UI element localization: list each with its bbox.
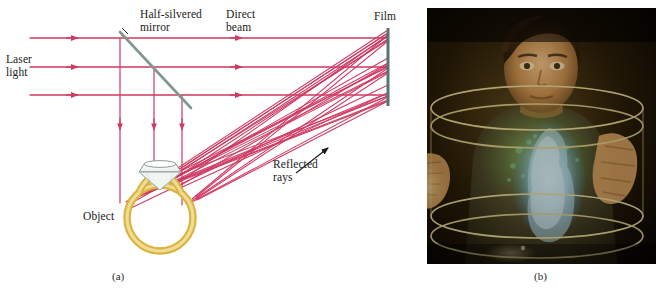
caption-panel-b: (b) [534, 270, 547, 282]
label-direct-beam: Direct beam [226, 8, 255, 33]
hologram-photograph [427, 8, 656, 264]
label-film: Film [374, 10, 396, 23]
label-reflected-rays: Reflected rays [273, 158, 318, 183]
label-laser-light: Laser light [6, 53, 32, 78]
label-half-silvered-mirror: Half-silvered mirror [140, 8, 202, 33]
split-beam-direction-arrows [120, 118, 182, 130]
label-object: Object [83, 210, 114, 223]
mirror-leader [122, 28, 128, 34]
caption-panel-a: (a) [112, 270, 124, 282]
laser-beams [30, 38, 388, 95]
half-silvered-mirror [120, 32, 191, 108]
